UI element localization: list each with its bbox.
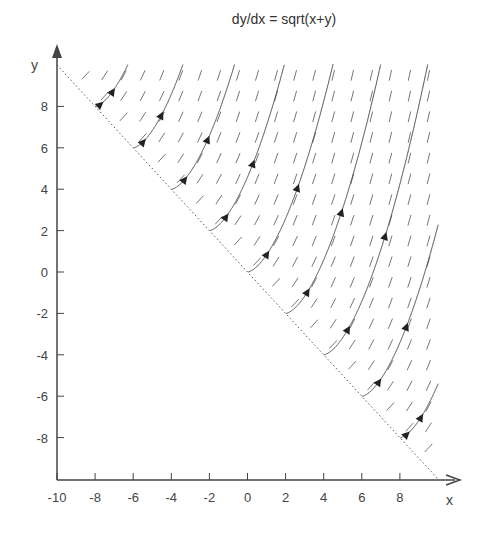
- svg-text:-4: -4: [36, 348, 48, 363]
- x-ticks: -10-8-6-4-202468: [48, 473, 404, 505]
- direction-field-plot: -10-8-6-4-202468 86420-2-4-6-8 x y: [0, 0, 488, 533]
- arrow-icon: [343, 326, 350, 335]
- y-axis: [52, 44, 62, 480]
- y-axis-arrow-icon: [52, 44, 62, 58]
- arrow-icon: [373, 378, 381, 387]
- svg-text:-8: -8: [36, 431, 48, 446]
- svg-text:8: 8: [396, 490, 403, 505]
- arrow-icon: [380, 232, 388, 241]
- arrow-icon: [107, 88, 115, 97]
- arrow-icon: [293, 184, 301, 193]
- svg-text:6: 6: [358, 490, 365, 505]
- y-ticks: 86420-2-4-6-8: [36, 99, 64, 445]
- x-axis-label: x: [446, 492, 453, 508]
- svg-text:2: 2: [41, 224, 48, 239]
- y-axis-label: y: [31, 57, 38, 73]
- arrow-icon: [221, 213, 229, 222]
- domain-boundary-line: [57, 65, 438, 479]
- svg-text:0: 0: [41, 265, 48, 280]
- svg-text:4: 4: [320, 490, 327, 505]
- arrow-icon: [302, 288, 310, 297]
- svg-text:-2: -2: [204, 490, 216, 505]
- svg-text:6: 6: [41, 141, 48, 156]
- solution-curves: [95, 64, 438, 440]
- svg-text:4: 4: [41, 182, 48, 197]
- svg-text:-6: -6: [36, 389, 48, 404]
- svg-text:2: 2: [282, 490, 289, 505]
- arrow-icon: [262, 251, 270, 260]
- arrow-icon: [416, 414, 424, 423]
- svg-text:-2: -2: [36, 306, 48, 321]
- svg-text:-10: -10: [48, 490, 67, 505]
- svg-text:0: 0: [244, 490, 251, 505]
- svg-text:-4: -4: [166, 490, 178, 505]
- arrow-icon: [336, 208, 344, 217]
- slope-field: [82, 70, 432, 452]
- svg-text:8: 8: [41, 99, 48, 114]
- arrow-icon: [138, 139, 146, 148]
- svg-text:-6: -6: [127, 490, 139, 505]
- arrow-icon: [401, 432, 410, 440]
- svg-text:-8: -8: [89, 490, 101, 505]
